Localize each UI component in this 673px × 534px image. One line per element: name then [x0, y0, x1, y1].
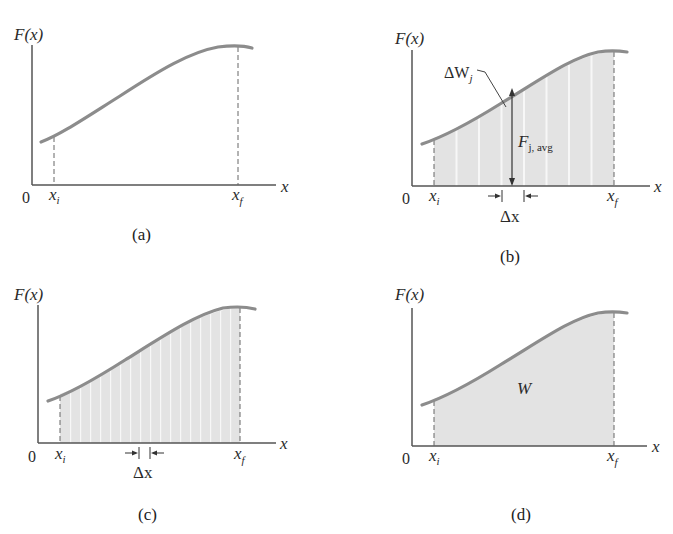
origin-label: 0 [28, 448, 36, 465]
delta-x-label: Δx [133, 463, 153, 482]
narrow-strips [60, 300, 240, 443]
x-axis-label: x [653, 177, 662, 196]
xf-label: xf [606, 446, 620, 468]
origin-label: 0 [402, 190, 410, 207]
xf-label: xf [231, 185, 245, 207]
force-curve [41, 46, 252, 142]
work-area-label: W [517, 379, 533, 398]
y-axis-label: F(x) [394, 29, 425, 48]
delta-w-label: ΔWj [444, 64, 472, 84]
xf-label: xf [606, 186, 620, 208]
x-axis-label: x [651, 437, 660, 456]
caption-b: (b) [500, 247, 520, 266]
y-axis-label: F(x) [394, 285, 425, 304]
xi-label: xi [48, 185, 60, 206]
wide-strips [434, 40, 614, 186]
origin-label: 0 [402, 450, 410, 467]
caption-a: (a) [132, 225, 151, 244]
work-area-figure: F(x) x 0 xi xf (a) [0, 0, 673, 534]
panel-a: F(x) x 0 xi xf (a) [13, 25, 289, 244]
x-axis-label: x [280, 177, 289, 196]
xi-label: xi [54, 444, 66, 465]
xf-label: xf [233, 444, 247, 466]
delta-x-label: Δx [500, 207, 520, 226]
caption-c: (c) [138, 505, 157, 524]
xi-label: xi [428, 186, 440, 207]
caption-d: (d) [511, 505, 531, 524]
xi-label: xi [428, 446, 440, 467]
y-axis-label: F(x) [13, 285, 44, 304]
panel-c: F(x) x 0 xi xf Δx (c) [13, 285, 288, 524]
y-axis-label: F(x) [13, 25, 44, 44]
panel-b: F(x) x 0 xi xf ΔWj Fj, avg Δx (b) [394, 29, 662, 266]
origin-label: 0 [22, 189, 30, 206]
x-axis-label: x [279, 434, 288, 453]
panel-d: F(x) x 0 xi xf W (d) [394, 285, 660, 524]
